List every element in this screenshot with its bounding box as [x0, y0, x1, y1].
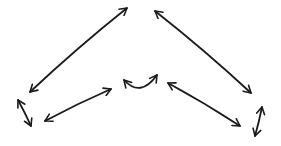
double-arrow-icon — [18, 100, 31, 126]
double-arrow-icon — [45, 89, 111, 121]
double-arrow-icon — [124, 75, 157, 88]
double-arrow-icon — [255, 107, 262, 136]
arrow-diagram-svg — [0, 0, 281, 146]
double-arrow-icon — [155, 11, 251, 93]
double-arrow-icon — [168, 83, 240, 126]
double-arrow-icon — [30, 8, 127, 92]
arrow-diagram — [0, 0, 281, 146]
